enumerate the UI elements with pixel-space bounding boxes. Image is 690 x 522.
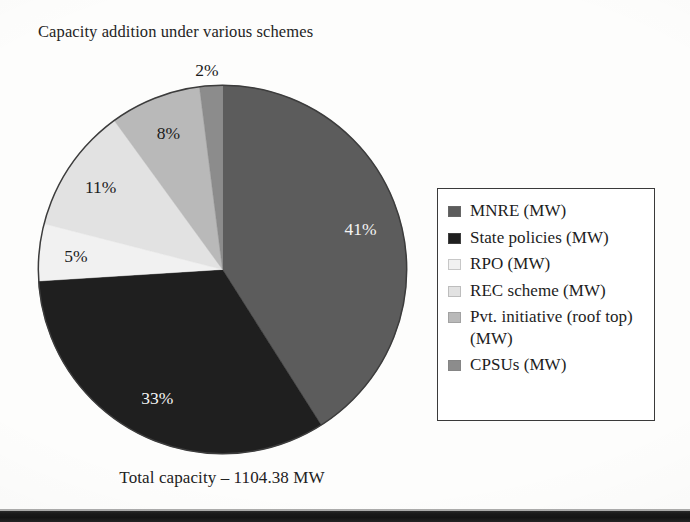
total-capacity-caption: Total capacity – 1104.38 MW — [0, 468, 444, 488]
pie-label-cpsus: 2% — [195, 60, 218, 80]
legend-item-cpsus[interactable]: CPSUs (MW) — [448, 354, 646, 376]
scanned-page: Capacity addition under various schemes … — [0, 0, 690, 522]
legend-label: MNRE (MW) — [470, 200, 566, 222]
legend-swatch-icon — [448, 233, 461, 244]
pie-chart: 41%33%5%11%8% — [37, 84, 408, 455]
pie-label-state_policies: 33% — [141, 388, 173, 408]
legend-label: CPSUs (MW) — [470, 354, 566, 376]
legend-swatch-icon — [448, 312, 461, 323]
pie-slice-group — [38, 85, 406, 453]
legend-item-rpo[interactable]: RPO (MW) — [448, 253, 646, 275]
legend-label: REC scheme (MW) — [470, 280, 606, 302]
legend-item-rec-scheme[interactable]: REC scheme (MW) — [448, 280, 646, 302]
legend-swatch-icon — [448, 206, 461, 217]
legend-item-pvt-initiative[interactable]: Pvt. initiative (roof top) (MW) — [448, 306, 646, 349]
legend-label: Pvt. initiative (roof top) (MW) — [470, 306, 642, 349]
pie-chart-svg: 41%33%5%11%8% — [37, 84, 408, 455]
legend-swatch-icon — [448, 259, 461, 270]
legend-swatch-icon — [448, 360, 461, 371]
legend-swatch-icon — [448, 286, 461, 297]
legend-label: State policies (MW) — [470, 227, 609, 249]
legend-label: RPO (MW) — [470, 253, 550, 275]
legend-item-mnre[interactable]: MNRE (MW) — [448, 200, 646, 222]
pie-label-mnre: 41% — [344, 219, 376, 239]
cpsus-external-label-wrap: 2% — [185, 55, 265, 85]
pie-label-rec_scheme: 11% — [85, 177, 116, 197]
pie-label-pvt_initiative: 8% — [157, 123, 180, 143]
legend-item-state-policies[interactable]: State policies (MW) — [448, 227, 646, 249]
chart-title: Capacity addition under various schemes — [38, 22, 438, 42]
pie-label-rpo: 5% — [64, 246, 87, 266]
page-edge-band — [0, 511, 690, 522]
chart-legend: MNRE (MW) State policies (MW) RPO (MW) R… — [437, 188, 655, 421]
